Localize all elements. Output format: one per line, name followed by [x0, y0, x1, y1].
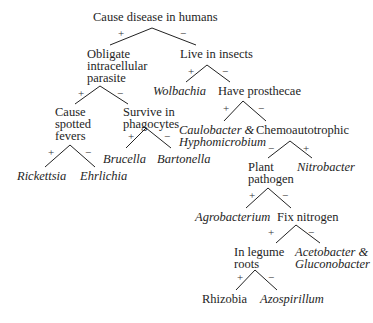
sign-minus: − — [268, 272, 274, 283]
node-agrobacterium: Agrobacterium — [195, 211, 270, 224]
sign-minus: − — [308, 227, 314, 238]
sign-minus: − — [164, 131, 170, 142]
node-nitrobacter: Nitrobacter — [297, 161, 355, 174]
sign-plus: + — [78, 88, 84, 99]
sign-plus: + — [268, 227, 274, 238]
node-obligate-line3: parasite — [87, 72, 126, 85]
sign-plus: + — [48, 147, 54, 158]
sign-minus: − — [222, 66, 228, 77]
sign-minus: − — [258, 103, 264, 114]
sign-plus: + — [188, 66, 194, 77]
node-chemoautotrophic: Chemoautotrophic — [256, 124, 349, 137]
sign-plus: + — [128, 131, 134, 142]
node-root: Cause disease in humans — [93, 11, 218, 24]
node-phagocytes-line2: phagocytes — [123, 118, 179, 131]
node-wolbachia: Wolbachia — [153, 85, 206, 98]
node-bartonella: Bartonella — [157, 153, 210, 166]
node-ehrlichia: Ehrlichia — [80, 170, 127, 183]
node-prosthecae: Have prosthecae — [218, 85, 301, 98]
sign-plus: + — [118, 28, 124, 39]
node-spotted-line3: fevers — [55, 130, 86, 143]
sign-minus: − — [180, 28, 186, 39]
sign-minus: − — [85, 147, 91, 158]
node-brucella: Brucella — [103, 153, 146, 166]
sign-minus: − — [117, 88, 123, 99]
node-live-in-insects: Live in insects — [180, 48, 253, 61]
sign-plus: + — [249, 190, 255, 201]
node-fix-nitrogen: Fix nitrogen — [277, 211, 338, 224]
node-rickettsia: Rickettsia — [17, 170, 66, 183]
node-legume-line2: roots — [234, 258, 259, 271]
sign-minus: − — [268, 143, 274, 154]
node-azospirillum: Azospirillum — [260, 293, 324, 306]
node-acetobacter-line2: Gluconobacter — [295, 258, 370, 271]
node-rhizobia: Rhizobia — [202, 293, 247, 306]
node-plant-line2: pathogen — [248, 173, 294, 186]
node-caulobacter-line2: Hyphomicrobium — [179, 136, 266, 149]
sign-plus: + — [223, 103, 229, 114]
sign-minus: − — [282, 190, 288, 201]
sign-plus: + — [237, 272, 243, 283]
sign-plus: + — [303, 143, 309, 154]
